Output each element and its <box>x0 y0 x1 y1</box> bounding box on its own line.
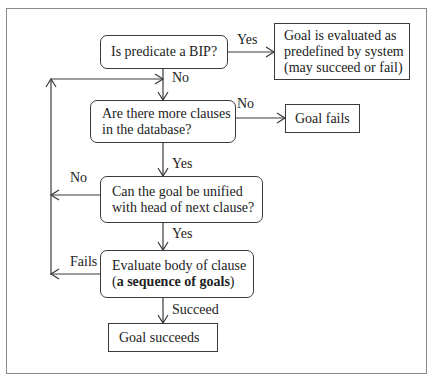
process-evaluate-body: Evaluate body of clause (a sequence of g… <box>100 250 254 298</box>
edge-label-bip-yes: Yes <box>237 32 257 48</box>
paren-close: ) <box>230 274 235 289</box>
goal-fails-text: Goal fails <box>295 111 359 127</box>
unify-line-1: Can the goal be unified <box>112 184 262 200</box>
more-clauses-line-1: Are there more clauses <box>102 106 235 122</box>
edge-label-unify-yes: Yes <box>172 226 192 242</box>
decision-is-bip-text: Is predicate a BIP? <box>111 44 227 60</box>
edge-label-body-succeed: Succeed <box>172 302 219 318</box>
goal-succeeds-text: Goal succeeds <box>119 330 217 346</box>
decision-is-bip: Is predicate a BIP? <box>100 35 228 69</box>
edge-label-more-yes: Yes <box>172 156 192 172</box>
evaluated-line-2: predefined by system <box>284 44 409 60</box>
edge-label-bip-no: No <box>172 70 189 86</box>
edge-label-body-fails: Fails <box>70 254 97 270</box>
terminal-goal-fails: Goal fails <box>285 104 360 133</box>
terminal-goal-succeeds: Goal succeeds <box>108 323 218 352</box>
edge-label-unify-no: No <box>70 170 87 186</box>
edge-label-more-no: No <box>237 96 254 112</box>
decision-more-clauses: Are there more clauses in the database? <box>90 100 236 143</box>
evaluated-line-3: (may succeed or fail) <box>284 60 409 76</box>
evaluate-body-line-1: Evaluate body of clause <box>112 258 253 274</box>
evaluated-line-1: Goal is evaluated as <box>284 28 409 44</box>
sequence-of-goals-text: a sequence of goals <box>117 274 230 289</box>
evaluate-body-line-2: (a sequence of goals) <box>112 274 253 290</box>
more-clauses-line-2: in the database? <box>102 122 235 138</box>
terminal-evaluated-predefined: Goal is evaluated as predefined by syste… <box>274 23 410 80</box>
decision-unify: Can the goal be unified with head of nex… <box>100 176 263 223</box>
unify-line-2: with head of next clause? <box>112 200 262 216</box>
